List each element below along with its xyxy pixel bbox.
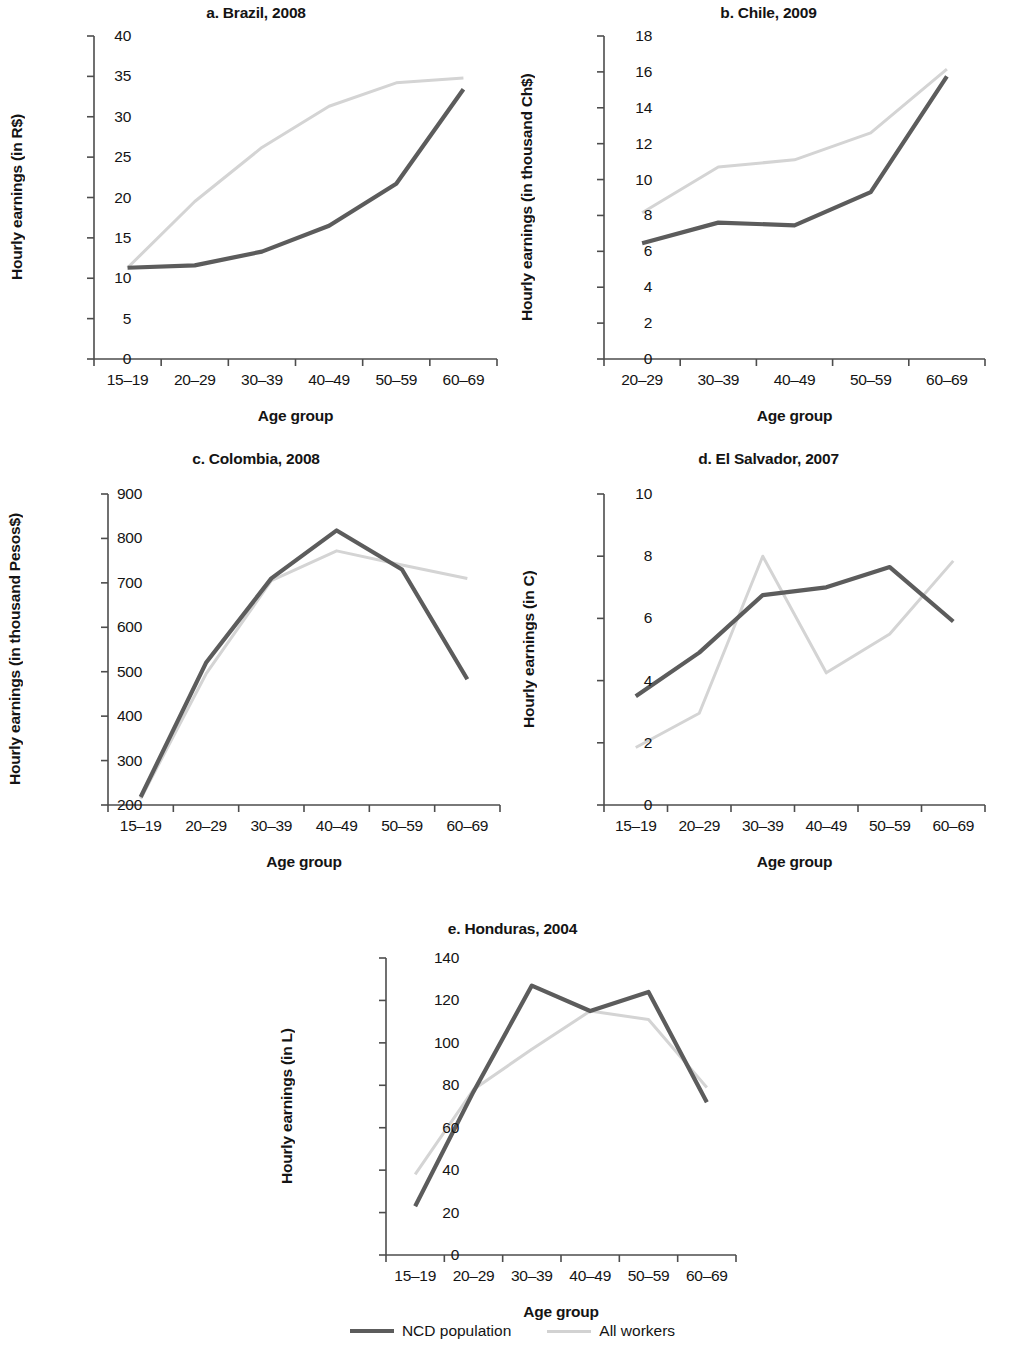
x-tick-label: 20–29 [678,817,720,835]
x-tick-label: 50–59 [381,817,423,835]
series-line-all-workers [636,556,954,747]
y-axis-label: Hourly earnings (in thousand Ch$) [518,36,536,359]
x-tick-label: 20–29 [174,371,216,389]
y-tick-label: 6 [644,242,652,260]
panel-d-title: d. El Salvador, 2007 [512,450,1025,468]
x-tick-label: 20–29 [185,817,227,835]
x-axis-label: Age group [604,853,985,871]
y-tick-label: 8 [644,547,652,565]
y-tick-label: 140 [434,949,459,967]
y-tick-label: 15 [114,229,131,247]
x-axis-label: Age group [94,407,497,425]
series-line-all-workers [141,551,468,799]
x-tick-label: 30–39 [697,371,739,389]
y-tick-label: 100 [434,1034,459,1052]
x-tick-label: 50–59 [375,371,417,389]
x-tick-label: 40–49 [308,371,350,389]
y-axis-label: Hourly earnings (in R$) [8,36,26,359]
x-tick-label: 40–49 [569,1267,611,1285]
panel-colombia: c. Colombia, 2008 2003004005006007008009… [0,450,512,894]
panel-d-plot: 024681015–1920–2930–3940–4950–5960–69Hou… [512,474,1025,894]
x-tick-label: 15–19 [120,817,162,835]
x-tick-label: 60–69 [443,371,485,389]
plot-area-c [42,474,510,819]
y-tick-label: 80 [442,1076,459,1094]
y-tick-label: 10 [635,171,652,189]
y-tick-label: 25 [114,148,131,166]
panel-a-title: a. Brazil, 2008 [0,4,512,22]
y-tick-label: 16 [635,63,652,81]
y-tick-label: 18 [635,27,652,45]
panel-honduras: e. Honduras, 2004 02040608010012014015–1… [256,920,769,1324]
series-line-ncd-population [141,530,468,797]
y-tick-label: 40 [114,27,131,45]
x-tick-label: 50–59 [869,817,911,835]
series-line-ncd-population [128,89,464,267]
y-tick-label: 35 [114,67,131,85]
y-tick-label: 0 [123,350,131,368]
y-tick-label: 2 [644,734,652,752]
x-tick-label: 60–69 [926,371,968,389]
y-axis-label: Hourly earnings (in L) [278,958,296,1255]
x-tick-label: 30–39 [742,817,784,835]
x-axis-label: Age group [108,853,500,871]
y-axis-label: Hourly earnings (in thousand Pesos$) [6,494,24,805]
y-axis-label: Hourly earnings (in C) [520,494,538,805]
panel-c-title: c. Colombia, 2008 [0,450,512,468]
y-tick-label: 400 [117,707,142,725]
panel-e-plot: 02040608010012014015–1920–2930–3940–4950… [256,944,769,1324]
legend-item-ncd-population: NCD population [350,1322,511,1340]
x-tick-label: 30–39 [241,371,283,389]
y-tick-label: 600 [117,618,142,636]
panel-el-salvador: d. El Salvador, 2007 024681015–1920–2930… [512,450,1025,894]
x-tick-label: 20–29 [621,371,663,389]
plot-area-b [542,28,997,373]
y-tick-label: 0 [644,350,652,368]
legend-label-all-workers: All workers [599,1322,675,1340]
y-tick-label: 12 [635,135,652,153]
y-tick-label: 2 [644,314,652,332]
x-tick-label: 40–49 [774,371,816,389]
series-line-ncd-population [636,567,954,696]
panel-e-title: e. Honduras, 2004 [256,920,769,938]
x-tick-label: 40–49 [805,817,847,835]
y-tick-label: 0 [644,796,652,814]
x-tick-label: 15–19 [394,1267,436,1285]
y-tick-label: 900 [117,485,142,503]
legend-item-all-workers: All workers [547,1322,675,1340]
y-tick-label: 10 [114,269,131,287]
y-tick-label: 8 [644,206,652,224]
y-tick-label: 10 [635,485,652,503]
panel-a-plot: 051015202530354015–1920–2930–3940–4950–5… [0,28,512,418]
panel-c-plot: 20030040050060070080090015–1920–2930–394… [0,474,512,894]
x-tick-label: 40–49 [316,817,358,835]
plot-area-e [316,944,746,1269]
series-line-all-workers [642,69,947,213]
panel-chile: b. Chile, 2009 02468101214161820–2930–39… [512,4,1025,418]
y-tick-label: 20 [114,189,131,207]
figure-legend: NCD population All workers [0,1322,1025,1340]
x-tick-label: 30–39 [511,1267,553,1285]
y-tick-label: 40 [442,1161,459,1179]
y-tick-label: 700 [117,574,142,592]
y-tick-label: 300 [117,752,142,770]
x-tick-label: 50–59 [850,371,892,389]
x-tick-label: 50–59 [628,1267,670,1285]
x-axis-label: Age group [386,1303,736,1321]
y-tick-label: 14 [635,99,652,117]
x-tick-label: 15–19 [615,817,657,835]
x-tick-label: 60–69 [932,817,974,835]
y-tick-label: 20 [442,1204,459,1222]
x-tick-label: 15–19 [107,371,149,389]
legend-line-all-workers-icon [547,1330,591,1333]
y-tick-label: 200 [117,796,142,814]
figure-canvas: a. Brazil, 2008 051015202530354015–1920–… [0,0,1025,1360]
legend-label-ncd-population: NCD population [402,1322,511,1340]
x-tick-label: 20–29 [453,1267,495,1285]
y-tick-label: 60 [442,1119,459,1137]
panel-b-plot: 02468101214161820–2930–3940–4950–5960–69… [512,28,1025,418]
y-tick-label: 30 [114,108,131,126]
y-tick-label: 4 [644,278,652,296]
x-tick-label: 60–69 [447,817,489,835]
legend-line-ncd-icon [350,1329,394,1334]
